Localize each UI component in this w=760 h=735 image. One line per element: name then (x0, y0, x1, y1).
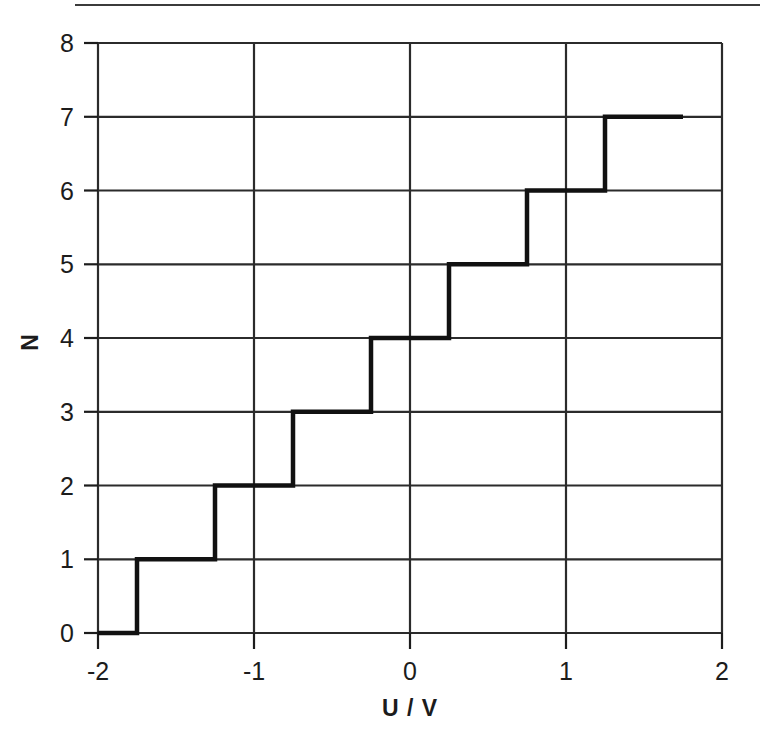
x-tick-label: 1 (559, 657, 573, 685)
x-axis-title: U / V (382, 695, 438, 721)
x-tick-label: 0 (403, 657, 417, 685)
x-axis-ticks (98, 633, 722, 649)
y-tick-label: 3 (60, 398, 74, 426)
y-tick-label: 0 (60, 619, 74, 647)
x-tick-label: -1 (243, 657, 265, 685)
step-chart: 0 1 2 3 4 5 6 7 8 -2 -1 0 1 2 U / V N (0, 0, 760, 735)
x-tick-labels: -2 -1 0 1 2 (87, 657, 729, 685)
y-tick-label: 7 (60, 103, 74, 131)
y-axis-ticks (84, 43, 98, 633)
y-axis-title: N (17, 333, 43, 351)
figure-canvas: 0 1 2 3 4 5 6 7 8 -2 -1 0 1 2 U / V N (0, 0, 760, 735)
y-tick-label: 8 (60, 29, 74, 57)
y-tick-label: 1 (60, 545, 74, 573)
y-tick-labels: 0 1 2 3 4 5 6 7 8 (60, 29, 74, 647)
x-tick-label: 2 (715, 657, 729, 685)
y-tick-label: 5 (60, 250, 74, 278)
x-tick-label: -2 (87, 657, 109, 685)
y-tick-label: 6 (60, 177, 74, 205)
y-tick-label: 4 (60, 324, 74, 352)
y-tick-label: 2 (60, 472, 74, 500)
step-series-line (98, 117, 683, 633)
